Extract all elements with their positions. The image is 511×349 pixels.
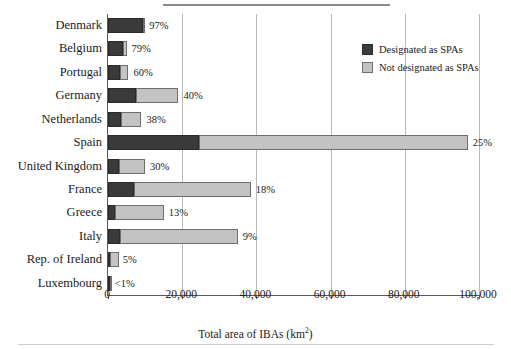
x-tick-label: 60,000 bbox=[314, 288, 346, 300]
stacked-bar[interactable] bbox=[108, 159, 145, 174]
category-label: Netherlands bbox=[0, 108, 102, 131]
category-label: Luxembourg bbox=[0, 272, 102, 295]
bar-percent-label: 5% bbox=[123, 252, 137, 267]
stacked-bar[interactable] bbox=[108, 229, 238, 244]
x-tick-label: 0 bbox=[104, 288, 110, 300]
stacked-bar[interactable] bbox=[108, 88, 178, 103]
legend-item[interactable]: Designated as SPAs bbox=[362, 44, 479, 55]
legend-label: Designated as SPAs bbox=[379, 44, 463, 55]
stacked-bar[interactable] bbox=[108, 18, 145, 33]
bar-segment-not-designated bbox=[121, 112, 142, 127]
bar-percent-label: 9% bbox=[243, 229, 257, 244]
bar-row: 40% bbox=[108, 84, 479, 107]
stacked-bar[interactable] bbox=[108, 252, 119, 267]
bar-segment-designated bbox=[108, 135, 199, 150]
x-tick-label: 100,000 bbox=[459, 288, 496, 300]
bar-segment-not-designated bbox=[134, 182, 251, 197]
gridline bbox=[479, 14, 480, 295]
bar-percent-label: 40% bbox=[183, 88, 202, 103]
bar-percent-label: 60% bbox=[133, 65, 152, 80]
stacked-bar[interactable] bbox=[108, 41, 127, 56]
legend-swatch-icon bbox=[362, 44, 373, 55]
category-label: Italy bbox=[0, 225, 102, 248]
bar-segment-designated bbox=[108, 205, 115, 220]
category-label: France bbox=[0, 178, 102, 201]
chart-figure: 97%79%60%40%38%25%30%18%13%9%5%<1% 020,0… bbox=[0, 0, 511, 349]
bar-row: 25% bbox=[108, 131, 479, 154]
bar-segment-not-designated bbox=[199, 135, 468, 150]
bar-segment-designated bbox=[108, 88, 136, 103]
bar-row: <1% bbox=[108, 272, 479, 295]
stacked-bar[interactable] bbox=[108, 112, 141, 127]
stacked-bar[interactable] bbox=[108, 205, 164, 220]
bar-segment-not-designated bbox=[119, 159, 145, 174]
bar-segment-not-designated bbox=[120, 229, 238, 244]
x-tick-label: 40,000 bbox=[240, 288, 272, 300]
bar-segment-not-designated bbox=[123, 41, 127, 56]
bar-segment-not-designated bbox=[110, 252, 119, 267]
bar-segment-designated bbox=[108, 229, 120, 244]
x-tick-label: 80,000 bbox=[388, 288, 420, 300]
bar-percent-label: 13% bbox=[169, 205, 188, 220]
stacked-bar[interactable] bbox=[108, 135, 468, 150]
bar-row: 9% bbox=[108, 225, 479, 248]
bar-row: 18% bbox=[108, 178, 479, 201]
bar-segment-designated bbox=[108, 65, 120, 80]
category-label: United Kingdom bbox=[0, 155, 102, 178]
stacked-bar[interactable] bbox=[108, 65, 128, 80]
bar-segment-designated bbox=[108, 41, 123, 56]
category-label: Greece bbox=[0, 201, 102, 224]
bar-percent-label: <1% bbox=[115, 276, 135, 291]
bar-row: 30% bbox=[108, 155, 479, 178]
bar-segment-not-designated bbox=[120, 65, 128, 80]
bar-percent-label: 18% bbox=[256, 182, 275, 197]
bar-percent-label: 25% bbox=[473, 135, 492, 150]
bar-segment-designated bbox=[108, 18, 143, 33]
bar-segment-not-designated bbox=[115, 205, 163, 220]
bar-segment-designated bbox=[108, 182, 134, 197]
legend-swatch-icon bbox=[362, 62, 373, 73]
bar-row: 5% bbox=[108, 248, 479, 271]
bar-percent-label: 79% bbox=[132, 41, 151, 56]
bar-percent-label: 38% bbox=[146, 112, 165, 127]
bottom-divider-rule bbox=[18, 344, 494, 345]
category-label: Rep. of Ireland bbox=[0, 248, 102, 271]
bar-row: 13% bbox=[108, 201, 479, 224]
bar-segment-designated bbox=[108, 159, 119, 174]
category-label: Belgium bbox=[0, 37, 102, 60]
bar-row: 97% bbox=[108, 14, 479, 37]
bar-segment-not-designated bbox=[110, 276, 112, 291]
bar-row: 38% bbox=[108, 108, 479, 131]
category-label: Portugal bbox=[0, 61, 102, 84]
legend-label: Not designated as SPAs bbox=[379, 62, 479, 73]
stacked-bar[interactable] bbox=[108, 182, 251, 197]
bar-segment-not-designated bbox=[143, 18, 145, 33]
x-tick-label: 20,000 bbox=[165, 288, 197, 300]
top-divider-rule bbox=[163, 4, 390, 6]
bar-segment-designated bbox=[108, 112, 121, 127]
bar-segment-not-designated bbox=[136, 88, 178, 103]
category-label: Denmark bbox=[0, 14, 102, 37]
category-label: Spain bbox=[0, 131, 102, 154]
bar-percent-label: 97% bbox=[149, 18, 168, 33]
x-axis-title: Total area of IBAs (km2) bbox=[0, 326, 511, 340]
category-label: Germany bbox=[0, 84, 102, 107]
legend-item[interactable]: Not designated as SPAs bbox=[362, 62, 479, 73]
bar-percent-label: 30% bbox=[150, 159, 169, 174]
chart-legend: Designated as SPAsNot designated as SPAs bbox=[362, 44, 479, 80]
